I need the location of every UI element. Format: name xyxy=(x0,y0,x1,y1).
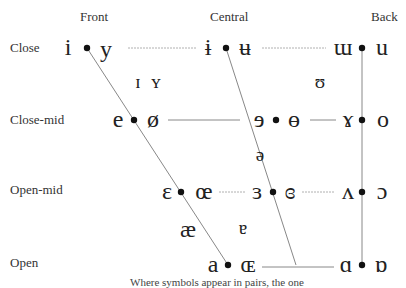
vowel-symbol: ɶ xyxy=(240,252,255,276)
vowel-point-dot xyxy=(359,189,365,195)
vowel-symbol: æ xyxy=(180,217,196,241)
row-label-open: Open xyxy=(10,256,38,269)
vowel-symbol: ʊ xyxy=(315,72,325,91)
vowel-symbol: ɪ xyxy=(135,72,140,91)
vowel-symbol: ɜ xyxy=(252,179,262,203)
vowel-symbol: u xyxy=(376,35,388,59)
vowel-symbol: ɒ xyxy=(375,252,388,276)
vowel-symbol: ɨ xyxy=(205,35,212,59)
vowel-symbol: ɵ xyxy=(288,107,300,131)
vowel-point-dot xyxy=(223,45,229,51)
vowel-symbol: i xyxy=(65,35,72,59)
vowel-symbol: ə xyxy=(256,145,264,164)
vowel-symbol: ʏ xyxy=(151,72,160,91)
vowel-symbol: ɐ xyxy=(239,218,247,237)
vowel-point-dot xyxy=(273,117,279,123)
vowel-point-dot xyxy=(359,45,365,51)
column-label-back: Back xyxy=(371,10,398,23)
vowel-point-dot xyxy=(131,117,137,123)
vowel-symbol: ø xyxy=(147,107,159,131)
vowel-point-dot xyxy=(178,189,184,195)
vowel-point-dot xyxy=(270,189,276,195)
vowel-symbol: ɤ xyxy=(343,107,354,131)
vowel-symbol: ɯ xyxy=(334,35,353,59)
vowel-symbol: ʉ xyxy=(239,35,251,59)
column-label-front: Front xyxy=(80,10,108,23)
vowel-point-dot xyxy=(84,45,90,51)
vowel-symbol: ɔ xyxy=(377,179,388,203)
vowel-symbol: e xyxy=(113,107,124,131)
vowel-symbol: o xyxy=(377,107,389,131)
vowel-point-dot xyxy=(359,262,365,268)
vowel-symbol: ʌ xyxy=(342,179,354,203)
vowel-symbol: œ xyxy=(195,179,212,203)
footer-caption: Where symbols appear in pairs, the one xyxy=(130,276,304,288)
vowel-symbol: ɛ xyxy=(162,179,172,203)
vowel-symbol: ɘ xyxy=(254,107,265,131)
vowel-point-dot xyxy=(359,117,365,123)
vowel-symbol: y xyxy=(100,37,112,61)
vowel-symbol: ɞ xyxy=(285,179,296,203)
row-label-close: Close xyxy=(10,41,40,54)
vowel-symbol: a xyxy=(208,252,219,276)
vowel-symbol: ɑ xyxy=(340,252,353,276)
vowel-point-dot xyxy=(225,262,231,268)
row-label-close-mid: Close-mid xyxy=(10,113,64,126)
column-label-central: Central xyxy=(210,10,248,23)
row-label-open-mid: Open-mid xyxy=(10,183,63,196)
